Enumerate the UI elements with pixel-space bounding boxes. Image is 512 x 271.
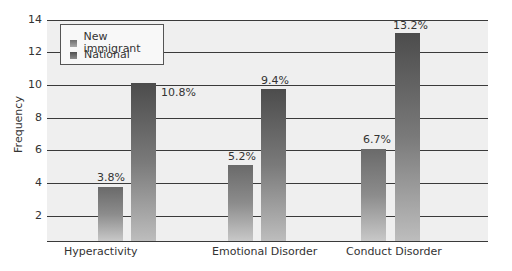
y-tick-label: 10 xyxy=(20,79,42,91)
bar-chart: 14 12 10 8 6 4 2 Frequency 3.8% 10.8% 5.… xyxy=(0,0,512,271)
x-axis-line xyxy=(47,241,488,242)
bar-national-emotional-disorder xyxy=(261,89,286,241)
y-tick-label: 2 xyxy=(20,210,42,222)
y-tick-label: 12 xyxy=(20,46,42,58)
value-label: 6.7% xyxy=(363,134,391,146)
x-category-label: Emotional Disorder xyxy=(212,245,317,258)
y-tick-label: 4 xyxy=(20,177,42,189)
bar-national-conduct-disorder xyxy=(395,33,420,241)
value-label: 3.8% xyxy=(97,172,125,184)
y-axis-label: Frequency xyxy=(12,95,25,155)
legend-swatch-icon xyxy=(70,52,77,59)
value-label: 9.4% xyxy=(261,75,289,87)
bar-new-immigrant-emotional-disorder xyxy=(228,165,253,241)
x-category-label: Conduct Disorder xyxy=(346,245,442,258)
legend-swatch-icon xyxy=(70,40,77,47)
value-label: 5.2% xyxy=(228,151,256,163)
bar-new-immigrant-conduct-disorder xyxy=(361,149,386,241)
bar-new-immigrant-hyperactivity xyxy=(98,187,123,241)
legend-item-national: National xyxy=(70,49,130,61)
value-label: 13.2% xyxy=(393,20,428,32)
value-label: 10.8% xyxy=(161,87,196,99)
y-tick-label: 14 xyxy=(20,14,42,26)
legend-label: National xyxy=(84,49,130,61)
legend: New immigrant National xyxy=(60,24,164,65)
bar-national-hyperactivity xyxy=(131,83,156,241)
x-category-label: Hyperactivity xyxy=(64,245,138,258)
